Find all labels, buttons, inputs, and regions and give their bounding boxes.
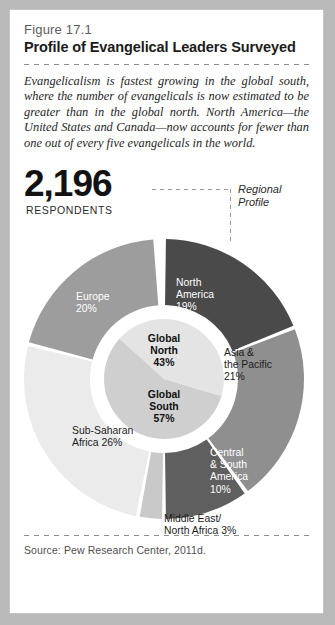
regional-profile-donut-chart: North America 19%Asia & the Pacific 21%C… — [24, 229, 311, 529]
regional-profile-annotation: Regional Profile — [238, 183, 309, 209]
source-note: Source: Pew Research Center, 2011d. — [24, 544, 309, 556]
label-asia-pacific: Asia & the Pacific 21% — [224, 347, 296, 384]
label-central-south-america: Central & South America 10% — [210, 447, 274, 496]
label-north-america: North America 19% — [176, 277, 246, 314]
label-europe: Europe 20% — [76, 291, 138, 315]
label-global-north: Global North 43% — [129, 333, 199, 370]
figure-number: Figure 17.1 — [24, 22, 309, 37]
figure-title: Profile of Evangelical Leaders Surveyed — [24, 39, 309, 55]
top-divider — [24, 64, 309, 65]
label-global-south: Global South 57% — [129, 389, 199, 426]
label-middle-east-north-africa: Middle East/ North Africa 3% — [164, 513, 284, 537]
figure-panel: Figure 17.1 Profile of Evangelical Leade… — [9, 9, 324, 614]
figure-content: Figure 17.1 Profile of Evangelical Leade… — [24, 22, 309, 603]
annotation-leader-line-horizontal — [152, 189, 230, 190]
figure-blurb: Evangelicalism is fastest growing in the… — [24, 74, 309, 151]
label-sub-saharan-africa: Sub-Saharan Africa 26% — [72, 425, 174, 449]
respondent-stat-block: 2,196 RESPONDENTS Regional Profile — [24, 165, 309, 227]
